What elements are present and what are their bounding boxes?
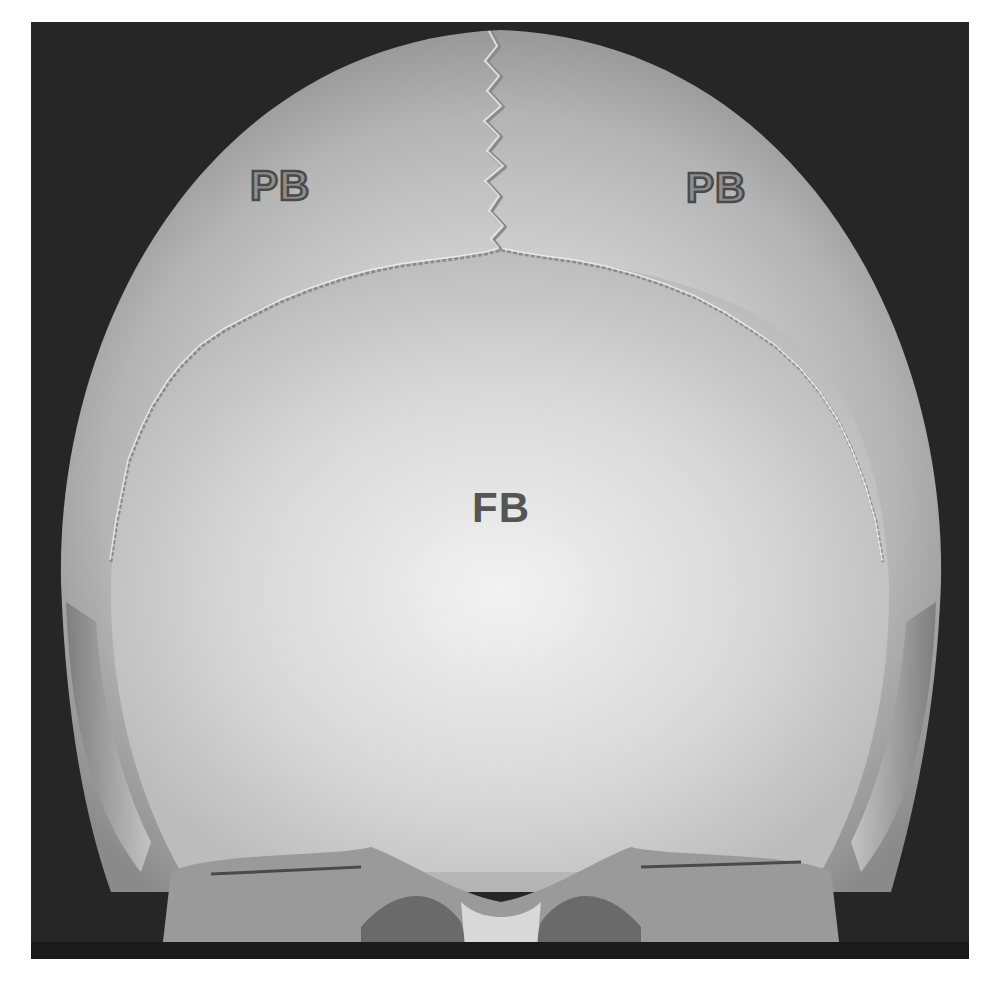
image-frame: PB PB FB	[31, 22, 969, 959]
label-parietal-bone-left: PB	[250, 165, 310, 207]
label-parietal-bone-right: PB	[686, 167, 746, 209]
label-frontal-bone: FB	[472, 487, 530, 529]
